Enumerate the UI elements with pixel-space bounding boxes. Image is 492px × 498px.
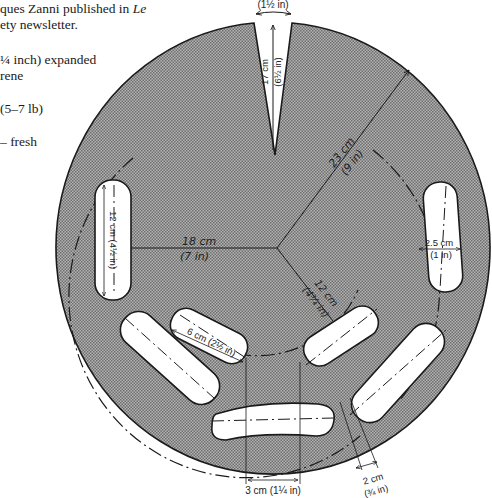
slot-length-cm: 17 cm xyxy=(259,59,270,85)
slot-length-in: (6½ in) xyxy=(272,57,283,87)
slot-width-label: (1½ in) xyxy=(257,0,288,10)
right-sausage-width-in: (1 in) xyxy=(430,249,452,260)
inner-left-in: (7 in) xyxy=(180,250,209,263)
left-sausage-length: 12 cm (4½ in) xyxy=(108,211,119,269)
cake-template-diagram: (1½ in) 17 cm (6½ in) xyxy=(0,0,492,498)
right-sausage-width-cm: 2.5 cm xyxy=(425,237,454,248)
bottom-gap-label: 3 cm (1¼ in) xyxy=(245,485,301,496)
inner-left-cm: 18 cm xyxy=(182,235,216,248)
